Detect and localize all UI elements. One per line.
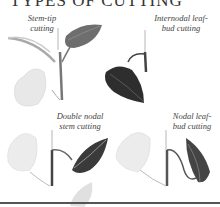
double-nodal-stem-cutting xyxy=(8,130,108,207)
nodal-leaf-bud-cutting xyxy=(116,130,210,186)
cuttings-illustration xyxy=(0,0,220,207)
internodal-leaf-bud-cutting xyxy=(105,30,146,103)
bottom-rule xyxy=(0,202,220,204)
stem-tip-cutting xyxy=(8,24,102,106)
